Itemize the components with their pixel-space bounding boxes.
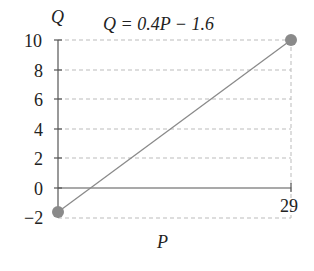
y-axis-label: Q xyxy=(51,8,64,26)
y-tick-6: 6 xyxy=(34,91,43,109)
data-point-start xyxy=(52,206,64,218)
chart-title: Q = 0.4P − 1.6 xyxy=(103,15,214,33)
y-tick-neg2: −2 xyxy=(24,209,43,227)
chart-plot xyxy=(0,0,314,271)
x-tick-29: 29 xyxy=(280,197,298,215)
data-point-end xyxy=(285,34,297,46)
y-tick-4: 4 xyxy=(34,121,43,139)
data-line xyxy=(58,40,291,212)
y-tick-0: 0 xyxy=(34,180,43,198)
grid-lines xyxy=(58,40,291,218)
y-tick-2: 2 xyxy=(34,150,43,168)
x-axis-label: P xyxy=(157,233,168,251)
y-tick-10: 10 xyxy=(24,32,42,50)
y-tick-8: 8 xyxy=(34,62,43,80)
